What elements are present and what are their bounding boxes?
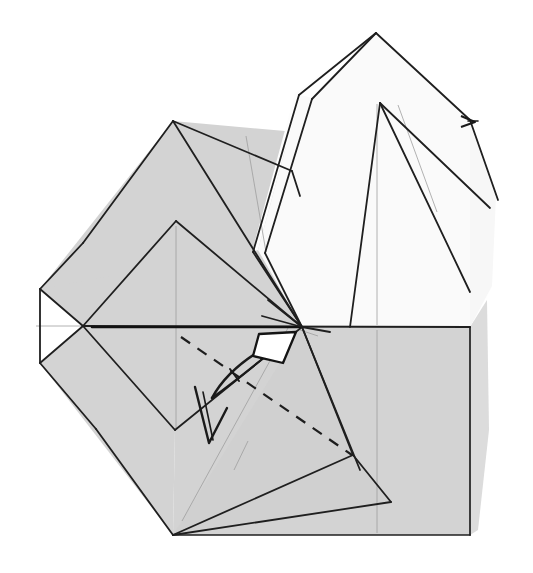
upper-white-flap [258,33,470,327]
origami-illustration [0,0,533,573]
right-sliver-panel [470,300,489,535]
paper-panels [40,33,496,535]
upper-white-flap-right-sliver [470,120,496,327]
origami-diagram-canvas [0,0,533,573]
